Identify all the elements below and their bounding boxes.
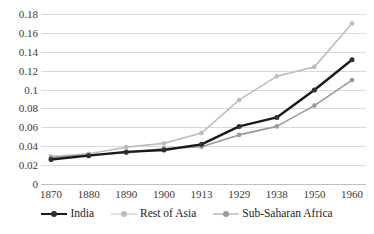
data-point [162,141,167,146]
data-point [312,65,317,70]
data-point [350,78,355,83]
legend-dot [121,211,127,217]
data-point [199,142,204,147]
data-point [350,57,355,62]
x-axis-tick-label: 1960 [341,188,363,201]
legend-marker-icon [111,209,137,219]
data-point [124,149,129,154]
axis-baseline [41,184,366,185]
y-axis-tick-label: 0.18 [19,9,38,20]
data-point [124,145,129,150]
data-point [274,74,279,79]
data-point [274,115,279,120]
series-layer [41,14,366,184]
y-axis-tick-label: 0.04 [19,141,38,152]
legend-item-india[interactable]: India [41,207,94,220]
legend-marker-icon [213,209,239,219]
legend-marker-icon [41,209,67,219]
legend-label: India [70,207,94,220]
data-point [237,98,242,103]
data-point [161,148,166,153]
data-point [274,124,279,129]
y-axis-tick-label: 0.06 [19,122,38,133]
y-axis-labels: 00.020.040.060.080.10.120.140.160.18 [0,14,38,184]
data-point [312,103,317,108]
x-axis-tick-label: 1900 [153,188,175,201]
legend-label: Rest of Asia [140,207,196,220]
y-axis-tick-label: 0.02 [19,160,38,171]
legend-label: Sub-Saharan Africa [242,207,332,220]
x-axis-tick-label: 1880 [78,188,100,201]
x-axis-tick-label: 1950 [303,188,325,201]
series-rest-of-asia [49,21,355,159]
data-point [199,131,204,136]
data-point [86,153,91,158]
x-axis-tick-label: 1938 [266,188,288,201]
y-axis-tick-label: 0.12 [19,65,38,76]
data-point [350,21,355,26]
y-axis-tick-label: 0.08 [19,103,38,114]
data-point [237,133,242,138]
x-axis-tick-label: 1913 [191,188,213,201]
x-axis-tick-label: 1929 [228,188,250,201]
series-line [51,23,352,156]
y-axis-tick-label: 0.16 [19,27,38,38]
line-chart: 00.020.040.060.080.10.120.140.160.18 187… [0,0,374,234]
data-point [237,124,242,129]
chart-legend: IndiaRest of AsiaSub-Saharan Africa [0,207,374,220]
legend-item-sub-saharan-africa[interactable]: Sub-Saharan Africa [213,207,332,220]
x-axis-tick-label: 1870 [40,188,62,201]
x-axis-labels: 187018801890190019131929193819501960 [41,188,366,204]
legend-item-rest-of-asia[interactable]: Rest of Asia [111,207,196,220]
y-axis-tick-label: 0.1 [24,84,38,95]
legend-dot [223,211,229,217]
y-axis-tick-label: 0.14 [19,46,38,57]
series-sub-saharan-africa [49,78,355,160]
data-point [49,157,54,162]
legend-dot [51,211,57,217]
plot-area [41,14,366,184]
y-axis-tick-label: 0 [33,179,39,190]
data-point [312,88,317,93]
x-axis-tick-label: 1890 [115,188,137,201]
